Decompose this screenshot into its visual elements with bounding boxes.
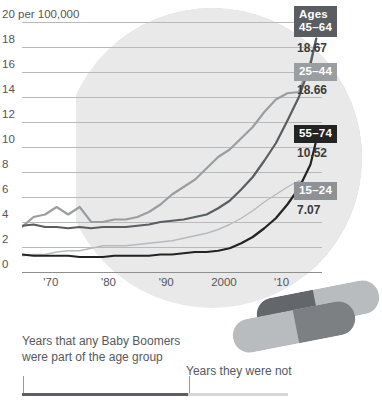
legend-badge-25-44-label: 25–44: [299, 65, 332, 77]
note-boomers-included: Years that any Baby Boomers were part of…: [22, 334, 252, 365]
legend-tick-start: [23, 376, 24, 393]
legend-badge-45-64-line2: 45–64: [299, 21, 332, 33]
end-value-25-44: 18.66: [297, 84, 327, 97]
x-tick-label-1980: '80: [84, 276, 134, 288]
series-line-15-24: [22, 181, 316, 256]
end-value-15-24: 7.07: [297, 204, 320, 217]
x-tick-label-1990: '90: [141, 276, 191, 288]
legend-badge-15-24-label: 15–24: [299, 184, 332, 196]
series-lines: [22, 22, 322, 272]
chart-canvas: 20 per 100,000181614121086420 '70'80'902…: [0, 0, 382, 412]
y-tick-label-4: 4: [2, 208, 8, 220]
series-line-45-64: [22, 39, 316, 229]
y-tick-label-2: 2: [2, 233, 8, 245]
legend-timeline-bar: [22, 393, 288, 396]
y-tick-label-16: 16: [2, 58, 15, 70]
series-line-55-74: [22, 141, 316, 258]
note-boomers-excluded: Years they were not: [186, 364, 376, 380]
x-tick-label-2000: 2000: [199, 276, 249, 288]
legend-badge-55-74[interactable]: 55–74: [294, 125, 337, 143]
y-tick-label-8: 8: [2, 158, 8, 170]
legend-badge-45-64-line1: Ages: [299, 8, 328, 20]
end-value-55-74: 10.52: [297, 147, 327, 160]
legend-badge-15-24[interactable]: 15–24: [294, 182, 337, 200]
y-tick-label-10: 10: [2, 133, 15, 145]
legend-badge-45-64[interactable]: Ages 45–64: [294, 6, 337, 37]
legend-tick-split: [189, 376, 190, 393]
legend-badge-25-44[interactable]: 25–44: [294, 63, 337, 81]
end-value-45-64: 18.67: [297, 42, 327, 55]
y-tick-label-0: 0: [2, 258, 8, 270]
x-axis-line: [22, 272, 322, 273]
y-tick-label-14: 14: [2, 83, 15, 95]
y-tick-label-20: 20 per 100,000: [2, 8, 79, 20]
y-tick-label-18: 18: [2, 33, 15, 45]
y-tick-label-6: 6: [2, 183, 8, 195]
x-tick-label-1970: '70: [26, 276, 76, 288]
y-tick-label-12: 12: [2, 108, 15, 120]
series-line-25-44: [22, 39, 316, 227]
x-tick-label-2010: '10: [257, 276, 307, 288]
legend-badge-55-74-label: 55–74: [299, 127, 332, 139]
